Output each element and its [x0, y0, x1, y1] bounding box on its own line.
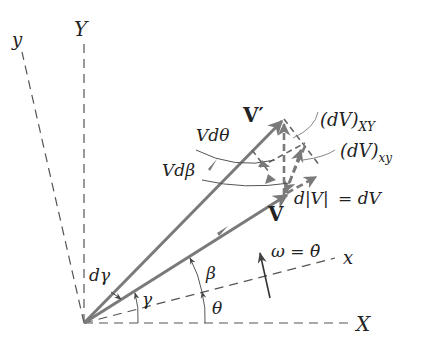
Y-axis-label: Y: [74, 17, 89, 41]
V-dbeta-arc: [202, 180, 290, 186]
theta-label: θ: [212, 298, 222, 318]
y-axis-rotating: [22, 52, 84, 323]
beta-label: β: [205, 263, 216, 283]
arrowhead-icon: [265, 174, 276, 184]
V-dtheta-label: Vdθ: [196, 125, 229, 145]
leader-dV-xy: [303, 150, 335, 160]
rotating-frame-vector-diagram: X Y x y V′ V (dV)XY (dV)xy Vdθ Vdβ d|V| …: [0, 0, 422, 348]
d-gamma-label: dγ: [89, 265, 111, 285]
x-axis-label: x: [343, 247, 353, 268]
vector-V: [84, 195, 287, 323]
y-axis-label: y: [11, 29, 23, 50]
dashed-edge-right: [284, 119, 320, 166]
dV-xy-label: (dV)xy: [340, 140, 392, 165]
gamma-arc: [135, 293, 138, 323]
dV-XY-label: (dV)XY: [320, 109, 376, 134]
beta-arc: [190, 258, 202, 292]
V-label: V: [267, 202, 284, 226]
omega-arrow: [260, 253, 270, 298]
V-dbeta-label: Vdβ: [162, 160, 195, 180]
arrowhead-icon: [208, 159, 217, 171]
X-axis-label: X: [354, 312, 371, 336]
gamma-label: γ: [142, 289, 153, 309]
dV-magnitude-label: d|V| = dV: [294, 188, 383, 208]
omega-label: ω = θ̇: [271, 241, 320, 261]
V-prime-label: V′: [242, 103, 264, 127]
leader-dV-XY: [293, 112, 318, 138]
dashed-edge-left: [252, 150, 269, 172]
theta-arc: [202, 292, 205, 323]
